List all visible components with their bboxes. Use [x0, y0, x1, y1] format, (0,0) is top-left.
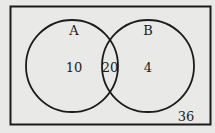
venn-diagram: A B 10 20 4 36: [0, 0, 215, 133]
set-a-only-value: 10: [66, 60, 83, 75]
set-a-label: A: [68, 23, 79, 38]
set-b-only-value: 4: [144, 60, 152, 75]
intersection-value: 20: [102, 60, 119, 75]
set-b-label: B: [143, 23, 153, 38]
outside-value: 36: [178, 109, 195, 124]
venn-svg: A B 10 20 4 36: [0, 0, 215, 133]
